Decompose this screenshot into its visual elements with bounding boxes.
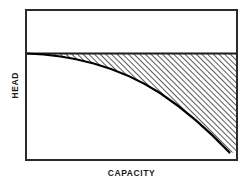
pump-performance-chart: HEAD CAPACITY [0, 0, 243, 184]
chart-svg [0, 0, 243, 184]
x-axis-label: CAPACITY [26, 169, 237, 178]
y-axis-label: HEAD [11, 63, 20, 107]
